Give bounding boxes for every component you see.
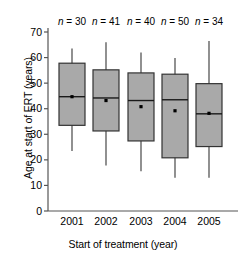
box-plot-group — [59, 49, 85, 151]
mean-marker — [207, 112, 210, 115]
box-plot-group — [196, 41, 222, 178]
box-plot-figure: Age at start of ERT (years) 010203040506… — [0, 0, 246, 261]
box-rect — [162, 74, 188, 158]
box-rect — [196, 84, 222, 147]
mean-marker — [104, 99, 107, 102]
box-plot-group — [128, 52, 154, 171]
box-rect — [59, 63, 85, 125]
box-plot-group — [93, 42, 119, 165]
mean-marker — [173, 109, 176, 112]
mean-marker — [139, 105, 142, 108]
box-plot-group — [162, 58, 188, 178]
mean-marker — [70, 95, 73, 98]
plot-area — [0, 0, 246, 261]
